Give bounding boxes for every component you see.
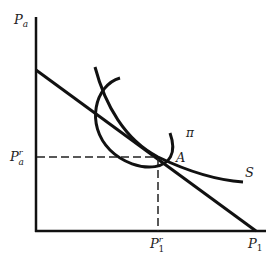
pi-curve-label: π: [185, 126, 195, 140]
point-a-label: A: [175, 150, 185, 165]
y-axis-label: Pa: [13, 12, 28, 29]
x-axis-label: P1: [247, 236, 262, 253]
s-curve-label: S: [245, 165, 254, 180]
s-curve: [95, 67, 243, 182]
y-tick-label: Pra: [9, 148, 24, 167]
x-tick-label: Pr1: [149, 235, 164, 254]
diagram-canvas: Pa P1 Pra Pr1 π S A: [0, 0, 275, 261]
